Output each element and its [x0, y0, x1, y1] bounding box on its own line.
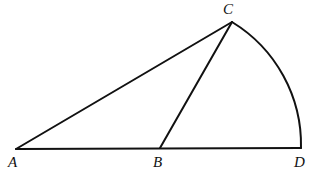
segment-AC: [16, 22, 232, 149]
geometry-figure: A B C D: [0, 0, 315, 177]
segment-AD: [16, 148, 301, 149]
figure-canvas: [0, 0, 315, 177]
arc-CD: [232, 22, 301, 148]
vertex-label-d: D: [294, 155, 305, 170]
vertex-label-c: C: [223, 2, 233, 17]
segment-BC: [160, 22, 232, 148]
vertex-label-a: A: [8, 155, 17, 170]
vertex-label-b: B: [153, 155, 162, 170]
